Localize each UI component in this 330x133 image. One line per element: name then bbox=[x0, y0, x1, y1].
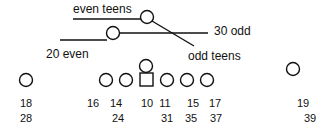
node-16 bbox=[100, 74, 113, 87]
num-10: 10 bbox=[137, 98, 157, 109]
label-even-teens: even teens bbox=[73, 3, 132, 15]
num-18: 18 bbox=[16, 98, 36, 109]
thirty-odd-node bbox=[107, 27, 120, 40]
node-15 bbox=[181, 74, 194, 87]
num-16: 16 bbox=[83, 98, 103, 109]
num-37: 37 bbox=[206, 113, 226, 124]
label-odd-teens: odd teens bbox=[188, 50, 241, 62]
node-19 bbox=[287, 63, 300, 76]
num-19: 19 bbox=[293, 98, 313, 109]
even-teens-node bbox=[141, 11, 154, 24]
node-14 bbox=[120, 74, 133, 87]
node-11 bbox=[161, 74, 174, 87]
num-11: 11 bbox=[155, 98, 175, 109]
num-15: 15 bbox=[183, 98, 203, 109]
num-39: 39 bbox=[300, 113, 320, 124]
num-14: 14 bbox=[106, 98, 126, 109]
node-10-square bbox=[140, 73, 153, 86]
num-28: 28 bbox=[16, 113, 36, 124]
num-35: 35 bbox=[181, 113, 201, 124]
node-17 bbox=[201, 74, 214, 87]
node-10-top-circle bbox=[140, 60, 153, 73]
label-30-odd: 30 odd bbox=[214, 25, 251, 37]
label-20-even: 20 even bbox=[46, 48, 89, 60]
num-24: 24 bbox=[108, 113, 128, 124]
node-18 bbox=[20, 74, 33, 87]
num-17: 17 bbox=[205, 98, 225, 109]
num-31: 31 bbox=[157, 113, 177, 124]
